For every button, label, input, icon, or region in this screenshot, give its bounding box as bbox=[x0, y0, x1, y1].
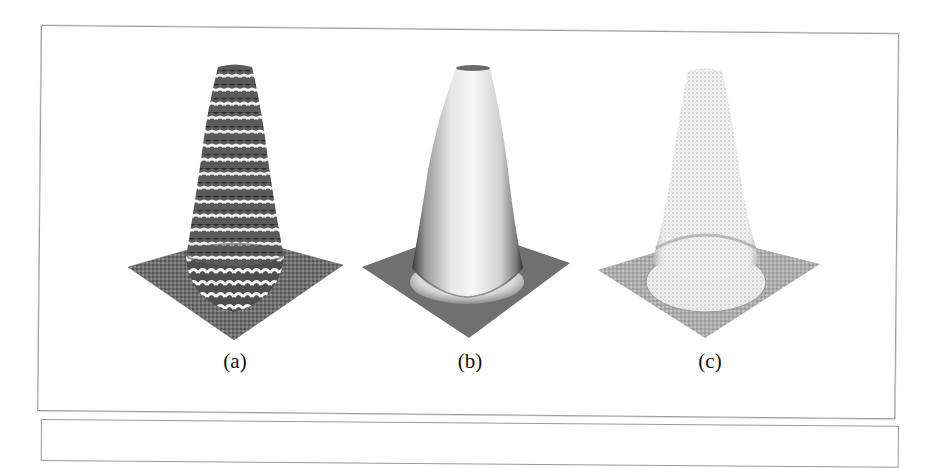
panel-a-cone-body bbox=[186, 65, 284, 267]
panel-b-cone-body bbox=[412, 65, 523, 297]
panel-c-surface bbox=[598, 69, 820, 339]
panel-a-surface bbox=[128, 65, 343, 341]
panel-b-surface bbox=[362, 65, 570, 338]
panel-a-label: (a) bbox=[223, 349, 246, 374]
panel-c-label: (c) bbox=[698, 349, 721, 374]
panel-b-label: (b) bbox=[458, 349, 483, 374]
